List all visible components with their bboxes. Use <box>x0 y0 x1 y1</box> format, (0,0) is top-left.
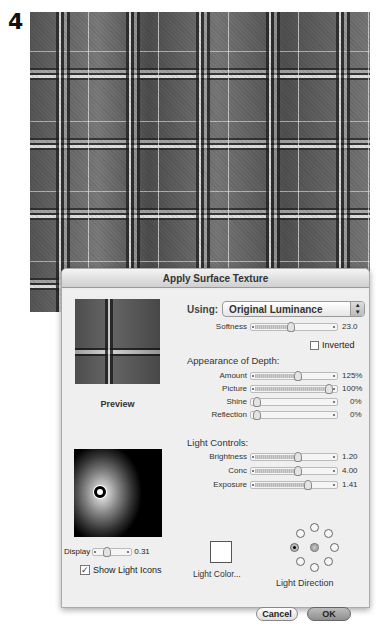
step-number: 4 <box>8 9 23 34</box>
display-slider[interactable] <box>92 548 132 556</box>
show-light-icons-checkbox[interactable]: ✓ Show Light Icons <box>80 565 162 575</box>
exposure-label: Exposure <box>188 480 250 489</box>
direction-top-radio[interactable] <box>310 523 319 532</box>
using-selected-value: Original Luminance <box>229 304 322 315</box>
slider-thumb[interactable] <box>294 466 302 476</box>
light-direction-selector <box>290 523 340 573</box>
direction-center-radio[interactable] <box>310 543 319 552</box>
cancel-button[interactable]: Cancel <box>256 607 298 621</box>
exposure-slider[interactable] <box>250 481 338 489</box>
dialog-title[interactable]: Apply Surface Texture <box>62 269 369 288</box>
light-source-handle[interactable] <box>94 486 106 498</box>
brightness-label: Brightness <box>188 452 250 461</box>
amount-value: 125% <box>338 371 366 380</box>
light-color-label[interactable]: Light Color... <box>193 569 241 579</box>
slider-thumb[interactable] <box>304 480 312 490</box>
using-row: Using: Original Luminance ▲▼ <box>187 301 365 317</box>
direction-right-radio[interactable] <box>330 543 339 552</box>
checkbox-checked-icon[interactable]: ✓ <box>80 565 90 575</box>
exposure-row: Exposure 1.41 <box>188 480 366 489</box>
plaid-texture-image <box>30 12 370 312</box>
reflection-row: Reflection 0% <box>188 410 366 419</box>
direction-bottom-left-radio[interactable] <box>296 557 305 566</box>
preview-label: Preview <box>75 399 160 409</box>
inverted-label: Inverted <box>322 340 355 350</box>
appearance-of-depth-heading: Appearance of Depth: <box>187 355 279 366</box>
slider-thumb[interactable] <box>294 452 302 462</box>
slider-thumb[interactable] <box>103 547 111 557</box>
inverted-checkbox[interactable]: Inverted <box>310 340 355 350</box>
amount-slider[interactable] <box>250 372 338 380</box>
softness-value: 23.0 <box>338 322 366 331</box>
amount-label: Amount <box>188 371 250 380</box>
slider-thumb[interactable] <box>253 410 261 420</box>
apply-surface-texture-dialog: Apply Surface Texture Preview Using: Ori… <box>61 268 370 608</box>
slider-thumb[interactable] <box>287 322 295 332</box>
show-light-icons-label: Show Light Icons <box>93 565 162 575</box>
reflection-slider[interactable] <box>250 411 338 419</box>
display-row: Display 0.31 <box>64 547 150 556</box>
brightness-slider[interactable] <box>250 453 338 461</box>
using-select[interactable]: Original Luminance ▲▼ <box>222 301 365 317</box>
picture-value: 100% <box>338 384 366 393</box>
picture-slider[interactable] <box>250 385 338 393</box>
select-arrows-icon: ▲▼ <box>350 302 364 316</box>
softness-slider[interactable] <box>250 323 338 331</box>
ok-button[interactable]: OK <box>307 607 351 621</box>
checkbox-unchecked-icon[interactable] <box>310 341 319 350</box>
brightness-value: 1.20 <box>338 452 366 461</box>
reflection-label: Reflection <box>188 410 250 419</box>
slider-thumb[interactable] <box>253 397 261 407</box>
shine-value: 0% <box>338 397 366 406</box>
light-controls-heading: Light Controls: <box>187 437 248 448</box>
direction-left-radio-selected[interactable] <box>290 543 299 552</box>
amount-row: Amount 125% <box>188 371 366 380</box>
softness-row: Softness 23.0 <box>196 322 366 331</box>
exposure-value: 1.41 <box>338 480 366 489</box>
light-color-swatch[interactable] <box>210 541 232 563</box>
slider-thumb[interactable] <box>294 371 302 381</box>
picture-row: Picture 100% <box>188 384 366 393</box>
texture-preview <box>75 299 160 384</box>
shine-slider[interactable] <box>250 398 338 406</box>
reflection-value: 0% <box>338 410 366 419</box>
direction-bottom-right-radio[interactable] <box>324 557 333 566</box>
display-label: Display <box>64 547 90 556</box>
direction-top-left-radio[interactable] <box>296 529 305 538</box>
shine-row: Shine 0% <box>188 397 366 406</box>
direction-bottom-radio[interactable] <box>310 563 319 572</box>
shine-label: Shine <box>188 397 250 406</box>
conc-slider[interactable] <box>250 467 338 475</box>
conc-value: 4.00 <box>338 466 366 475</box>
light-position-preview[interactable] <box>74 449 162 537</box>
using-label: Using: <box>187 304 218 315</box>
picture-label: Picture <box>188 384 250 393</box>
softness-label: Softness <box>196 322 250 331</box>
slider-thumb[interactable] <box>325 384 333 394</box>
direction-top-right-radio[interactable] <box>324 529 333 538</box>
brightness-row: Brightness 1.20 <box>188 452 366 461</box>
light-direction-label: Light Direction <box>276 578 334 588</box>
conc-label: Conc <box>188 466 250 475</box>
conc-row: Conc 4.00 <box>188 466 366 475</box>
display-value: 0.31 <box>134 547 150 556</box>
